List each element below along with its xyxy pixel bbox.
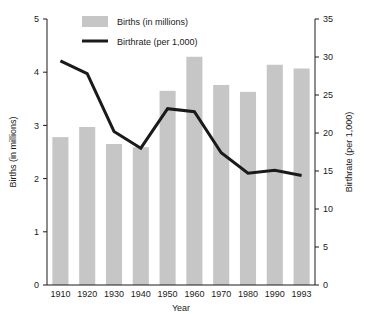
bar-1910 [52, 137, 68, 285]
bar-1920 [79, 127, 95, 285]
left-axis-tick-label: 3 [34, 121, 39, 131]
right-axis-tick-label: 10 [323, 204, 333, 214]
x-axis-tick-label-1960: 1960 [184, 289, 204, 299]
legend-swatch-births [82, 16, 108, 27]
bar-1990 [267, 65, 283, 285]
bar-1940 [133, 147, 149, 285]
right-axis-tick-label: 30 [323, 52, 333, 62]
right-axis-tick-label: 15 [323, 166, 333, 176]
bar-1960 [186, 57, 202, 285]
right-axis-title: Birthrate (per 1,000) [344, 112, 354, 193]
x-axis-tick-label-1930: 1930 [104, 289, 124, 299]
left-axis-tick-label: 4 [34, 67, 39, 77]
x-axis-title: Year [172, 303, 190, 313]
left-axis-tick-label: 1 [34, 227, 39, 237]
x-axis-tick-label-1920: 1920 [77, 289, 97, 299]
bar-1950 [160, 91, 176, 285]
left-axis-title: Births (in millions) [8, 116, 18, 187]
x-axis-tick-label-1993: 1993 [292, 289, 312, 299]
right-axis-tick-label: 5 [323, 242, 328, 252]
x-axis-tick-label-1980: 1980 [238, 289, 258, 299]
right-axis-tick-label: 0 [323, 280, 328, 290]
bar-1980 [240, 92, 256, 285]
legend-label-births: Births (in millions) [117, 17, 188, 27]
x-axis-tick-label-1970: 1970 [211, 289, 231, 299]
x-axis-tick-label-1910: 1910 [50, 289, 70, 299]
right-axis-tick-label: 20 [323, 128, 333, 138]
bar-1930 [106, 144, 122, 285]
birth-statistics-chart: 0123450510152025303519101920193019401950… [0, 0, 365, 314]
bar-1993 [294, 68, 310, 285]
right-axis-tick-label: 25 [323, 90, 333, 100]
right-axis-tick-label: 35 [323, 14, 333, 24]
x-axis-tick-label-1990: 1990 [265, 289, 285, 299]
left-axis-tick-label: 2 [34, 174, 39, 184]
legend-label-birthrate: Birthrate (per 1,000) [117, 37, 198, 47]
left-axis-tick-label: 0 [34, 280, 39, 290]
x-axis-tick-label-1950: 1950 [158, 289, 178, 299]
bar-1970 [213, 85, 229, 285]
chart-canvas: 0123450510152025303519101920193019401950… [0, 0, 365, 314]
x-axis-tick-label-1940: 1940 [131, 289, 151, 299]
left-axis-tick-label: 5 [34, 14, 39, 24]
